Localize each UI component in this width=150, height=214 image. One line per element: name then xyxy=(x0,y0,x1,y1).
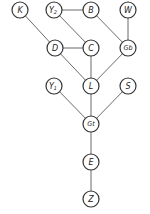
node-s: S xyxy=(120,78,136,94)
node-label: S xyxy=(125,82,130,91)
nodes: KY2BWDCGbY1LSGtEZ xyxy=(12,2,136,207)
node-y1: Y1 xyxy=(46,78,62,94)
node-label: B xyxy=(88,6,94,15)
node-w: W xyxy=(120,2,136,18)
node-label: W xyxy=(124,6,133,15)
node-l: L xyxy=(83,78,99,94)
node-label: D xyxy=(52,44,58,53)
node-label: Gb xyxy=(123,44,132,52)
node-y2: Y2 xyxy=(46,2,62,18)
node-label: Z xyxy=(87,195,94,204)
node-label: C xyxy=(88,44,94,53)
node-c: C xyxy=(83,40,99,56)
node-z: Z xyxy=(83,191,99,207)
node-label: Gt xyxy=(87,120,95,128)
node-gt: Gt xyxy=(83,116,99,132)
graph-diagram: KY2BWDCGbY1LSGtEZ xyxy=(0,0,150,214)
node-gb: Gb xyxy=(120,40,136,56)
node-d: D xyxy=(47,40,63,56)
node-b: B xyxy=(83,2,99,18)
node-label: L xyxy=(89,82,93,91)
node-label: K xyxy=(17,6,23,15)
node-e: E xyxy=(83,154,99,170)
edges xyxy=(20,10,128,199)
node-k: K xyxy=(12,2,28,18)
